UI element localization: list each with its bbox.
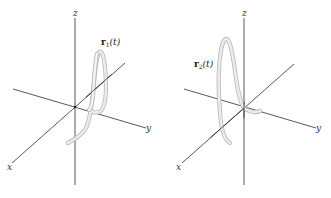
origin-left <box>74 106 76 108</box>
left-panel: z y x r1(t) <box>7 8 152 185</box>
curve-r1 <box>68 52 106 143</box>
y-axis-left <box>13 89 146 128</box>
x-axis-left-front <box>86 74 112 97</box>
y-axis-right <box>184 89 316 128</box>
right-panel: z y x r2(t) <box>176 8 322 185</box>
curve-r2 <box>219 39 260 143</box>
x-axis-right-front <box>210 108 244 138</box>
x-label-left: x <box>7 162 12 172</box>
y-label-right: y <box>315 123 322 133</box>
x-label-right: x <box>176 162 181 172</box>
curve-label-r2: r2(t) <box>194 59 214 70</box>
z-label-right: z <box>241 8 247 18</box>
z-label-left: z <box>72 8 78 18</box>
figure-canvas: z y x r1(t) z y x r2(t) <box>0 0 331 198</box>
y-label-left: y <box>145 123 152 133</box>
curve-label-r1: r1(t) <box>101 37 121 48</box>
